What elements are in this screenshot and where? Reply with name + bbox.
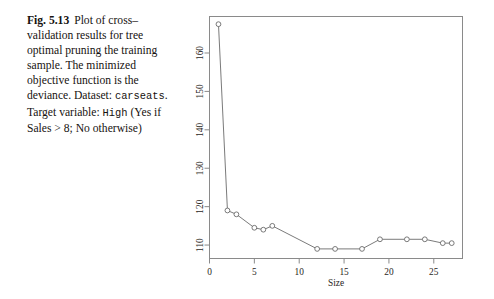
x-tick-label: 10 [295, 267, 305, 277]
data-point-marker [261, 227, 266, 232]
dataset-name: carseats [115, 90, 165, 102]
x-axis-title: Size [328, 278, 344, 288]
cv-deviance-plot: 110120130140150160 0510152025 Size [186, 8, 486, 296]
y-tick-label: 160 [196, 46, 206, 60]
x-tick-label: 15 [339, 267, 349, 277]
plot-svg: 110120130140150160 0510152025 Size [186, 8, 486, 296]
y-tick-label: 120 [196, 199, 206, 213]
data-point-marker [252, 225, 257, 230]
data-point-marker [225, 208, 230, 213]
data-point-marker [234, 212, 239, 217]
y-tick-label: 130 [196, 161, 206, 175]
variable-name: High [103, 107, 128, 119]
y-axis-ticks: 110120130140150160 [196, 46, 210, 252]
x-tick-label: 5 [252, 267, 257, 277]
data-point-marker [440, 241, 445, 246]
y-tick-label: 150 [196, 84, 206, 98]
cv-point-markers [216, 22, 454, 252]
y-tick-label: 110 [196, 238, 206, 252]
cv-line-series [218, 24, 451, 249]
y-tick-label: 140 [196, 122, 206, 136]
data-point-marker [333, 247, 338, 252]
x-tick-label: 0 [207, 267, 212, 277]
data-point-marker [404, 237, 409, 242]
data-point-marker [360, 247, 365, 252]
data-point-marker [315, 247, 320, 252]
data-point-marker [449, 241, 454, 246]
caption-line-1: Plot of [74, 14, 105, 27]
caption-line-9: otherwise) [93, 122, 142, 135]
figure-caption: Fig. 5.13Plot of cross–validation result… [27, 13, 179, 136]
data-point-marker [422, 237, 427, 242]
x-axis-ticks: 0510152025 [207, 259, 439, 277]
x-tick-label: 25 [429, 267, 439, 277]
figure-page: Fig. 5.13Plot of cross–validation result… [0, 0, 494, 299]
data-point-marker [378, 237, 383, 242]
data-point-marker [216, 22, 221, 27]
x-tick-label: 20 [384, 267, 394, 277]
figure-number: Fig. 5.13 [27, 14, 69, 27]
data-point-marker [270, 223, 275, 228]
